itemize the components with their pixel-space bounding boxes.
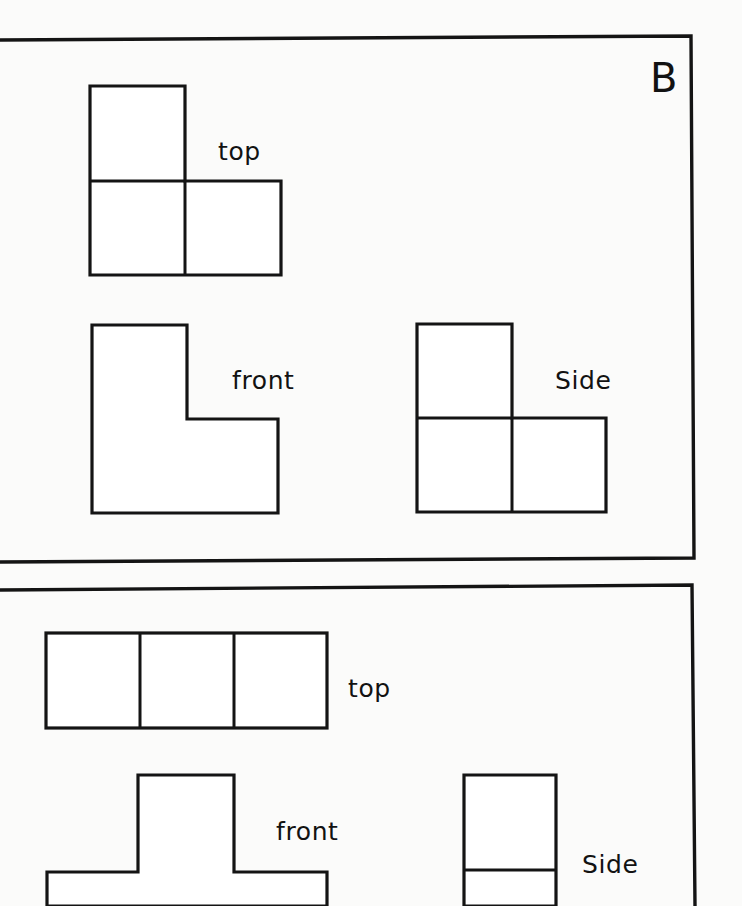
- panel-next-top-figure: [46, 633, 327, 728]
- panel-next-side-outline: [464, 775, 556, 906]
- panel-next-top-outline: [46, 633, 327, 728]
- worksheet-page: B top front Side: [0, 0, 742, 906]
- panel-next-top-label: top: [348, 674, 391, 703]
- panel-next-front-label: front: [276, 817, 338, 846]
- panel-next-side-figure: [464, 775, 556, 906]
- panel-next-side-label: Side: [582, 850, 638, 879]
- panel-b-side-label: Side: [555, 366, 611, 395]
- panel-b-top-label: top: [218, 137, 261, 166]
- panel-letter-b: B: [650, 55, 677, 101]
- panel-b-front-label: front: [232, 366, 294, 395]
